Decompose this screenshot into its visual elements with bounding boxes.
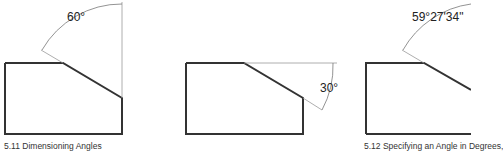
figure-30-degree: 30° xyxy=(186,63,338,134)
angle-label-59-27-34: 59°27'34" xyxy=(412,10,463,24)
caption-5-11: 5.11 Dimensioning Angles xyxy=(4,141,102,151)
caption-5-12: 5.12 Specifying an Angle in Degrees, xyxy=(364,141,503,151)
angle-label-60: 60° xyxy=(67,10,85,24)
angle-label-30: 30° xyxy=(320,81,338,95)
figure-59-degree: 59°27'34" xyxy=(366,4,471,134)
figure-60-degree: 60° xyxy=(5,2,122,134)
